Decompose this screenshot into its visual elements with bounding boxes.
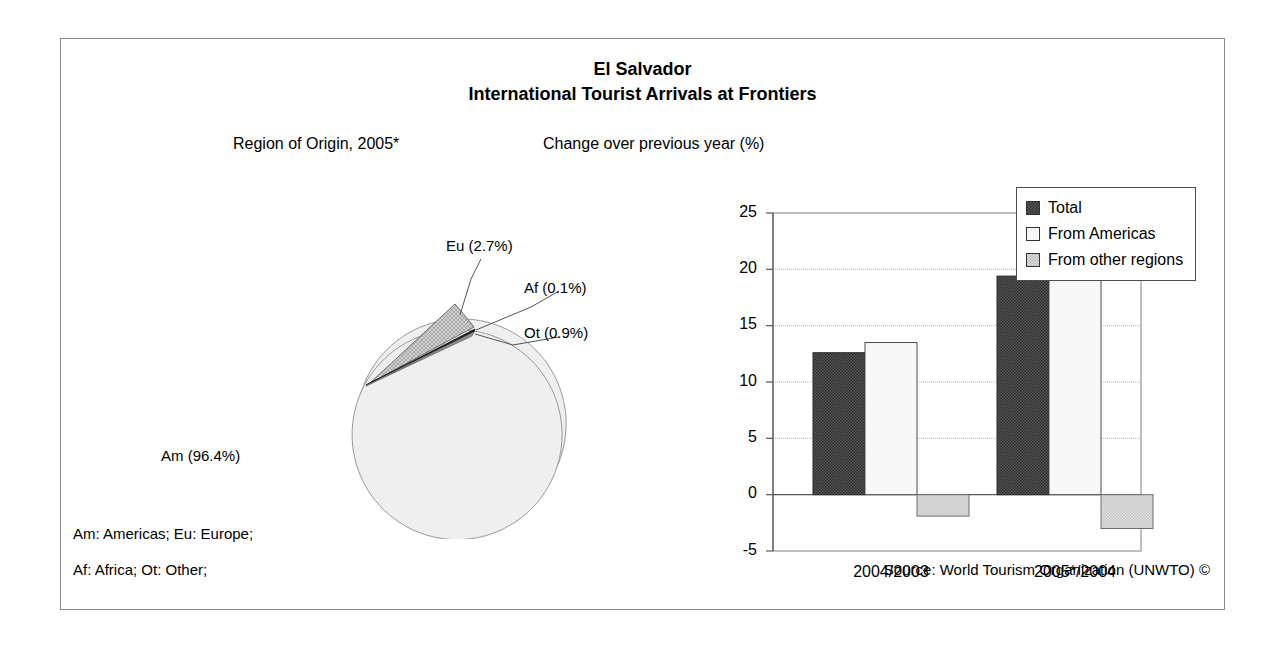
figure-title-country: El Salvador [61, 57, 1224, 81]
bar-chart-subtitle: Change over previous year (%) [543, 135, 764, 153]
footer-abbreviation-note-2: Af: Africa; Ot: Other; [73, 561, 207, 578]
legend-label-total: Total [1048, 199, 1082, 217]
americas-swatch-icon [1026, 227, 1040, 241]
bar-americas-2005-2004 [1049, 265, 1101, 495]
figure-title-subject: International Tourist Arrivals at Fronti… [61, 81, 1224, 107]
figure-frame: El Salvador International Tourist Arriva… [60, 38, 1225, 610]
pie-leader-line-eu [460, 259, 481, 315]
legend-item-from-americas: From Americas [1026, 221, 1183, 247]
bar-chart-legend: Total From Americas From other regions [1016, 187, 1196, 281]
y-axis-label-25: 25 [717, 203, 757, 221]
other-regions-swatch-icon [1026, 253, 1040, 267]
bar-other-regions-2005-2004 [1101, 495, 1153, 529]
pie-label-americas: Am (96.4%) [161, 447, 240, 464]
bar-other-regions-2004-2003 [917, 495, 969, 516]
bar-chart-panel: 25 20 15 10 5 0 -5 2004/2003 2005*/2004 … [621, 159, 1221, 579]
y-axis-label-minus5: -5 [717, 541, 757, 559]
y-axis-label-10: 10 [717, 372, 757, 390]
total-swatch-icon [1026, 201, 1040, 215]
pie-chart-subtitle: Region of Origin, 2005* [233, 135, 399, 153]
pie-label-other: Ot (0.9%) [524, 324, 588, 341]
legend-item-from-other-regions: From other regions [1026, 247, 1183, 273]
y-axis-label-5: 5 [717, 428, 757, 446]
pie-slice-americas-body [352, 330, 562, 539]
legend-item-total: Total [1026, 195, 1183, 221]
y-axis-label-15: 15 [717, 315, 757, 333]
pie-label-europe: Eu (2.7%) [446, 237, 513, 254]
pie-chart-panel: Eu (2.7%) Af (0.1%) Ot (0.9%) Am (96.4%) [61, 159, 641, 539]
legend-label-from-other-regions: From other regions [1048, 251, 1183, 269]
pie-label-africa: Af (0.1%) [524, 279, 587, 296]
bar-americas-2004-2003 [865, 343, 917, 495]
y-axis-label-20: 20 [717, 259, 757, 277]
legend-label-from-americas: From Americas [1048, 225, 1156, 243]
bar-total-2004-2003 [813, 353, 865, 495]
chart-title-block: El Salvador International Tourist Arriva… [61, 57, 1224, 107]
footer-abbreviation-note-1: Am: Americas; Eu: Europe; [73, 525, 253, 542]
y-axis-label-0: 0 [717, 484, 757, 502]
figure-source-credit: Source: World Tourism Organization (UNWT… [884, 561, 1210, 578]
pie-chart-svg [61, 159, 641, 539]
bar-total-2005-2004 [997, 276, 1049, 495]
